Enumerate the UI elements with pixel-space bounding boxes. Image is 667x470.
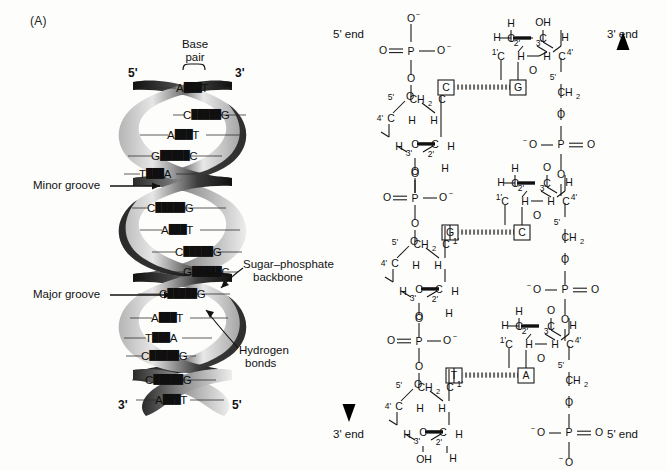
base-pair-caption: Base pair	[174, 38, 216, 64]
svg-text:O: O	[407, 72, 415, 84]
helix-base-pair-rung: G█████C	[151, 150, 198, 162]
svg-text:O: O	[529, 64, 537, 76]
svg-text:O: O	[537, 426, 545, 438]
svg-text:1': 1'	[500, 335, 507, 345]
svg-text:C: C	[395, 400, 403, 412]
svg-text:2': 2'	[432, 294, 439, 304]
svg-text:H: H	[511, 162, 519, 174]
svg-text:H: H	[507, 17, 515, 29]
dna-structure-figure: (A)	[0, 0, 667, 470]
svg-text:4': 4'	[377, 113, 384, 123]
left-base-1-letter: C	[442, 81, 450, 93]
svg-text:H: H	[408, 114, 416, 126]
svg-text:3': 3'	[414, 436, 421, 446]
helix-base-pair-rung: C█████G	[141, 350, 188, 362]
svg-text:1': 1'	[457, 379, 464, 389]
svg-text:1': 1'	[496, 192, 503, 202]
svg-text:O: O	[561, 253, 569, 265]
helix-panel: 5' 3' 3' 5' Base pair Minor groove Major…	[0, 0, 340, 470]
svg-text:O: O	[587, 138, 595, 150]
svg-text:2': 2'	[436, 437, 443, 447]
right-base-2-letter: C	[518, 226, 526, 238]
sugar-bold-bond	[521, 324, 539, 327]
svg-text:O: O	[414, 378, 422, 390]
svg-text:O: O	[379, 44, 387, 56]
hydrogen-bonds-line1: Hydrogen	[239, 344, 289, 357]
svg-text:CH: CH	[557, 86, 572, 98]
svg-text:O: O	[406, 90, 414, 102]
right-base-3-letter: A	[522, 369, 529, 381]
sugar-phosphate-backbone-label: Sugar–phosphate backbone	[243, 258, 334, 284]
svg-text:P: P	[407, 45, 414, 57]
helix-top-right-prime: 3'	[235, 66, 245, 80]
svg-text:O: O	[439, 191, 447, 203]
svg-text:O: O	[543, 161, 551, 173]
sugar-bold-bond	[425, 430, 443, 433]
svg-text:4': 4'	[575, 335, 582, 345]
svg-text:C: C	[566, 338, 574, 350]
svg-text:C: C	[387, 112, 395, 124]
svg-text:H: H	[547, 195, 555, 207]
helix-bottom-right-prime: 5'	[232, 398, 242, 412]
svg-text:H: H	[517, 50, 525, 62]
svg-text:O: O	[533, 283, 541, 295]
svg-text:O: O	[533, 209, 541, 221]
svg-text:2: 2	[580, 237, 584, 246]
helix-base-pair-rung: A███T	[151, 312, 183, 324]
svg-text:O: O	[410, 235, 418, 247]
svg-text:O: O	[547, 304, 555, 316]
helix-base-pair-rung: C█████G	[147, 202, 194, 214]
svg-text:C: C	[558, 50, 566, 62]
svg-text:5': 5'	[554, 217, 561, 227]
right-base-1-letter: G	[514, 81, 522, 93]
svg-text:C: C	[547, 320, 555, 332]
helix-base-pair-rung: T███A	[139, 168, 171, 180]
svg-text:OH: OH	[535, 16, 551, 28]
svg-text:3': 3'	[406, 148, 413, 158]
svg-text:O: O	[537, 352, 545, 364]
svg-text:O: O	[383, 191, 391, 203]
svg-text:C: C	[391, 257, 399, 269]
svg-text:OH: OH	[416, 453, 432, 465]
svg-text:−: −	[447, 42, 452, 51]
svg-text:2: 2	[428, 99, 432, 108]
helix-base-pair-rung: C█████G	[145, 374, 192, 386]
svg-text:4': 4'	[381, 258, 388, 268]
base-pair-caption-line1: Base	[174, 38, 216, 51]
svg-text:O: O	[557, 108, 565, 120]
svg-text:H: H	[416, 402, 424, 414]
svg-text:H: H	[434, 259, 442, 271]
right-nucleotide-2-labels: H O 2' 3' H C C H C 1' H H C 4' O 5' CH2	[496, 161, 599, 325]
svg-text:−: −	[453, 332, 458, 341]
svg-text:O: O	[387, 334, 395, 346]
svg-text:2: 2	[584, 380, 588, 389]
svg-text:−: −	[416, 10, 421, 19]
left-base-2-letter: G	[446, 226, 454, 238]
svg-text:O: O	[591, 283, 599, 295]
sugar-backbone-line1: Sugar–phosphate	[243, 258, 334, 271]
svg-text:2: 2	[436, 387, 440, 396]
sugar-bold-bond	[517, 181, 535, 184]
svg-text:O: O	[437, 44, 445, 56]
svg-text:C: C	[539, 32, 547, 44]
svg-text:H: H	[493, 31, 501, 43]
right-strand-top-end-label: 3' end	[607, 28, 638, 40]
svg-text:H: H	[438, 402, 446, 414]
right-nucleotide-1-labels: H OH 2' 3' H C C H C 1' H H C 4' O 5' CH	[492, 16, 595, 180]
svg-text:2: 2	[576, 92, 580, 101]
svg-text:O: O	[565, 396, 573, 408]
svg-text:H: H	[543, 50, 551, 62]
helix-base-pair-rung: G█████C	[183, 266, 230, 278]
right-strand-bottom-end-label: 5' end	[607, 428, 638, 440]
svg-text:H: H	[497, 176, 505, 188]
svg-text:O: O	[411, 165, 419, 177]
svg-text:H: H	[403, 428, 411, 440]
svg-text:H: H	[412, 259, 420, 271]
left-nucleotide-2-labels: O O P O− O CH2 5' C 4' H O H C 1' C C H	[381, 165, 460, 324]
left-strand-bottom-end-label: 3' end	[333, 428, 364, 440]
svg-text:4': 4'	[385, 401, 392, 411]
right-nucleotide-3-labels: H O 2' 3' H C C H C 1' H H C 4' O 5' CH2	[500, 304, 603, 468]
svg-text:5': 5'	[558, 360, 565, 370]
major-groove-label: Major groove	[33, 288, 100, 301]
svg-text:−: −	[559, 454, 564, 463]
